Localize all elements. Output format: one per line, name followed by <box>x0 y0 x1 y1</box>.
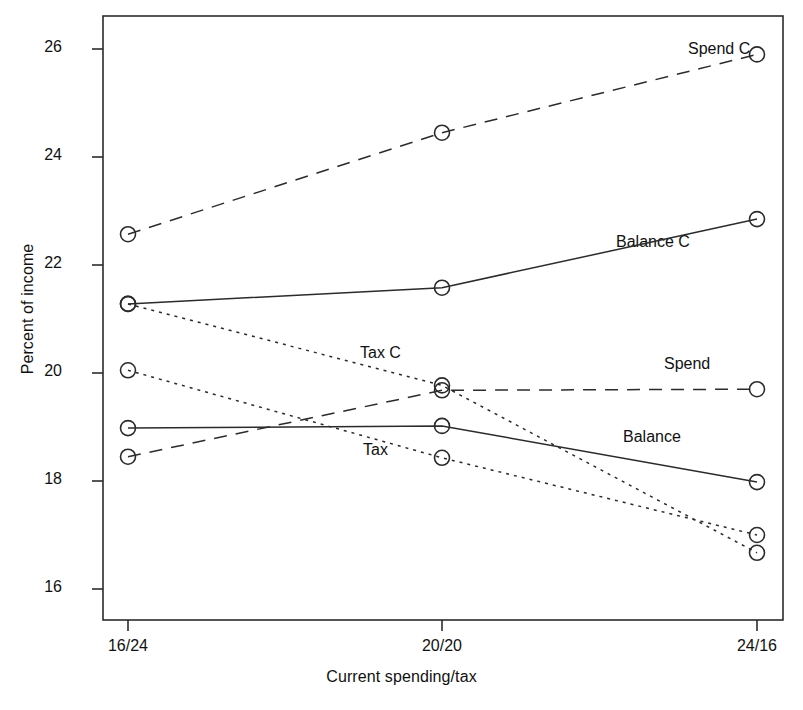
series-line-balance-c <box>128 219 757 304</box>
series-line-spend <box>128 389 757 457</box>
data-point <box>435 450 450 465</box>
data-point <box>750 382 765 397</box>
data-point <box>121 227 136 242</box>
data-point <box>750 545 765 560</box>
series-line-spend-c <box>128 54 757 234</box>
plot-area <box>0 0 803 710</box>
series-line-tax <box>128 370 757 535</box>
data-point <box>435 125 450 140</box>
chart-figure: Percent of income Current spending/tax 2… <box>0 0 803 710</box>
data-point <box>750 47 765 62</box>
series-line-balance <box>128 426 757 482</box>
series-line-tax-c <box>128 304 757 553</box>
